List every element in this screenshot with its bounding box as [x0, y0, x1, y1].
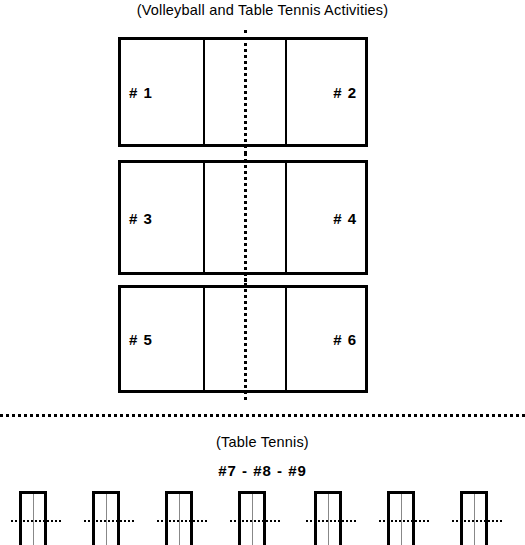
table-net-line — [157, 520, 207, 522]
volleyball-court-2: # 3 # 4 — [118, 160, 368, 275]
section-divider — [0, 414, 525, 417]
table-tennis-court-numbers: #7 - #8 - #9 — [0, 462, 525, 479]
court-label-6: # 6 — [333, 331, 357, 348]
table-tennis-table — [387, 491, 415, 545]
attack-line-left — [203, 40, 205, 144]
table-tennis-title: (Table Tennis) — [0, 434, 525, 450]
table-tennis-table — [460, 491, 488, 545]
table-net-line — [452, 520, 502, 522]
attack-line-left — [203, 288, 205, 390]
attack-line-right — [285, 40, 287, 144]
table-tennis-table — [314, 491, 342, 545]
net-line-court-3 — [244, 278, 247, 400]
table-net-line — [84, 520, 134, 522]
table-tennis-table — [19, 491, 47, 545]
volleyball-court-1: # 1 # 2 — [118, 37, 368, 147]
attack-line-right — [285, 163, 287, 272]
court-label-5: # 5 — [129, 331, 153, 348]
main-title: (Volleyball and Table Tennis Activities) — [0, 2, 525, 18]
volleyball-court-3: # 5 # 6 — [118, 285, 368, 393]
table-net-line — [230, 520, 280, 522]
table-net-line — [11, 520, 61, 522]
attack-line-right — [285, 288, 287, 390]
court-label-3: # 3 — [129, 209, 153, 226]
table-tennis-table — [238, 491, 266, 545]
court-label-1: # 1 — [129, 84, 153, 101]
net-line-court-2 — [244, 153, 247, 282]
court-label-4: # 4 — [333, 209, 357, 226]
net-line-court-1 — [244, 30, 247, 154]
gym-layout-diagram: (Volleyball and Table Tennis Activities)… — [0, 0, 525, 545]
table-net-line — [379, 520, 429, 522]
table-tennis-table — [92, 491, 120, 545]
table-net-line — [306, 520, 356, 522]
court-label-2: # 2 — [333, 84, 357, 101]
table-tennis-table — [165, 491, 193, 545]
attack-line-left — [203, 163, 205, 272]
